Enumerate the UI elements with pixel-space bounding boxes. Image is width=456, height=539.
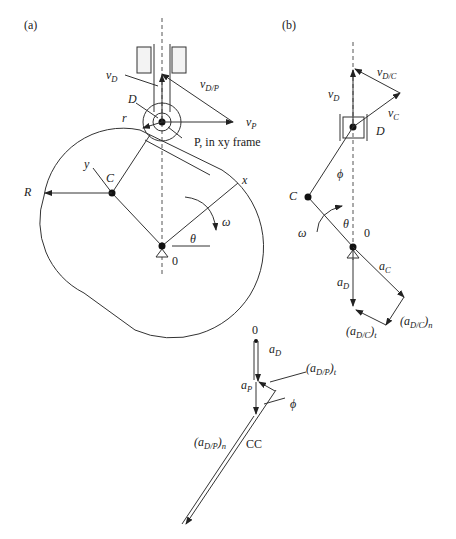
label-C-b: C	[289, 189, 298, 203]
label-vP: vP	[246, 115, 257, 131]
panel-a: (a)	[23, 18, 264, 338]
label-phi-b: ϕ	[337, 167, 343, 181]
point-C-b	[305, 194, 312, 201]
leader-aDP-t	[270, 372, 306, 382]
panel-b-label: (b)	[282, 18, 296, 32]
vector-vDP	[162, 74, 233, 122]
vector-aDP-t	[259, 382, 275, 391]
label-O: 0	[172, 254, 178, 268]
link-CD-b	[308, 127, 353, 197]
cam-profile	[40, 128, 264, 338]
ground-triangle	[156, 249, 168, 257]
label-omega-b: ω	[298, 226, 306, 240]
label-aDC-t: (aD/C)t	[346, 324, 377, 340]
label-C: C	[106, 171, 115, 185]
radius-r	[143, 122, 162, 128]
panel-a-label: (a)	[24, 18, 37, 32]
label-r: r	[122, 111, 127, 125]
label-y: y	[83, 157, 90, 171]
guide-left	[137, 47, 151, 73]
vector-aDC-t	[356, 310, 386, 325]
guide-right	[172, 47, 186, 73]
label-D: D	[127, 92, 137, 106]
vector-CC-2	[186, 390, 276, 524]
omega-arc-b	[317, 206, 342, 232]
label-aD-c: aD	[269, 342, 282, 358]
label-vC: vC	[388, 106, 399, 122]
link-OC	[112, 193, 162, 246]
leader-D	[136, 103, 158, 118]
label-D-b: D	[375, 124, 385, 138]
link-CD	[112, 135, 150, 193]
label-aC: aC	[379, 259, 391, 275]
panel-c: 0 aD (aD/P)t aP ϕ (aD/P)n CC	[182, 323, 337, 524]
label-vD-b: vD	[328, 87, 340, 103]
label-phi-c: ϕ	[290, 397, 296, 411]
label-aDC-n: (aD/C)n	[400, 314, 432, 330]
label-theta: θ	[190, 232, 196, 246]
label-O-b: 0	[364, 226, 370, 240]
leader-phi-c	[264, 398, 285, 404]
label-O-c: 0	[252, 323, 258, 337]
label-vDC: vD/C	[377, 65, 397, 81]
label-P-frame: P, in xy frame	[194, 135, 261, 149]
label-vDP: vD/P	[200, 77, 219, 93]
label-x: x	[241, 173, 248, 187]
label-CC: CC	[246, 437, 262, 451]
label-vD: vD	[106, 68, 118, 84]
origin-c	[254, 339, 258, 343]
label-omega: ω	[222, 215, 230, 229]
cam-follower-kinematics-diagram: (a)	[0, 0, 456, 539]
label-aDP-t: (aD/P)t	[306, 361, 337, 377]
label-aP: aP	[241, 378, 252, 394]
leader-vD	[125, 75, 158, 86]
label-aDP-n: (aD/P)n	[194, 435, 226, 451]
label-R: R	[23, 185, 32, 199]
label-aD-b: aD	[337, 275, 350, 291]
vector-CC-1	[182, 416, 254, 524]
label-theta-b: θ	[343, 217, 349, 231]
panel-b: (b) vD/C vD vC D ϕ C θ ω 0	[282, 18, 432, 340]
